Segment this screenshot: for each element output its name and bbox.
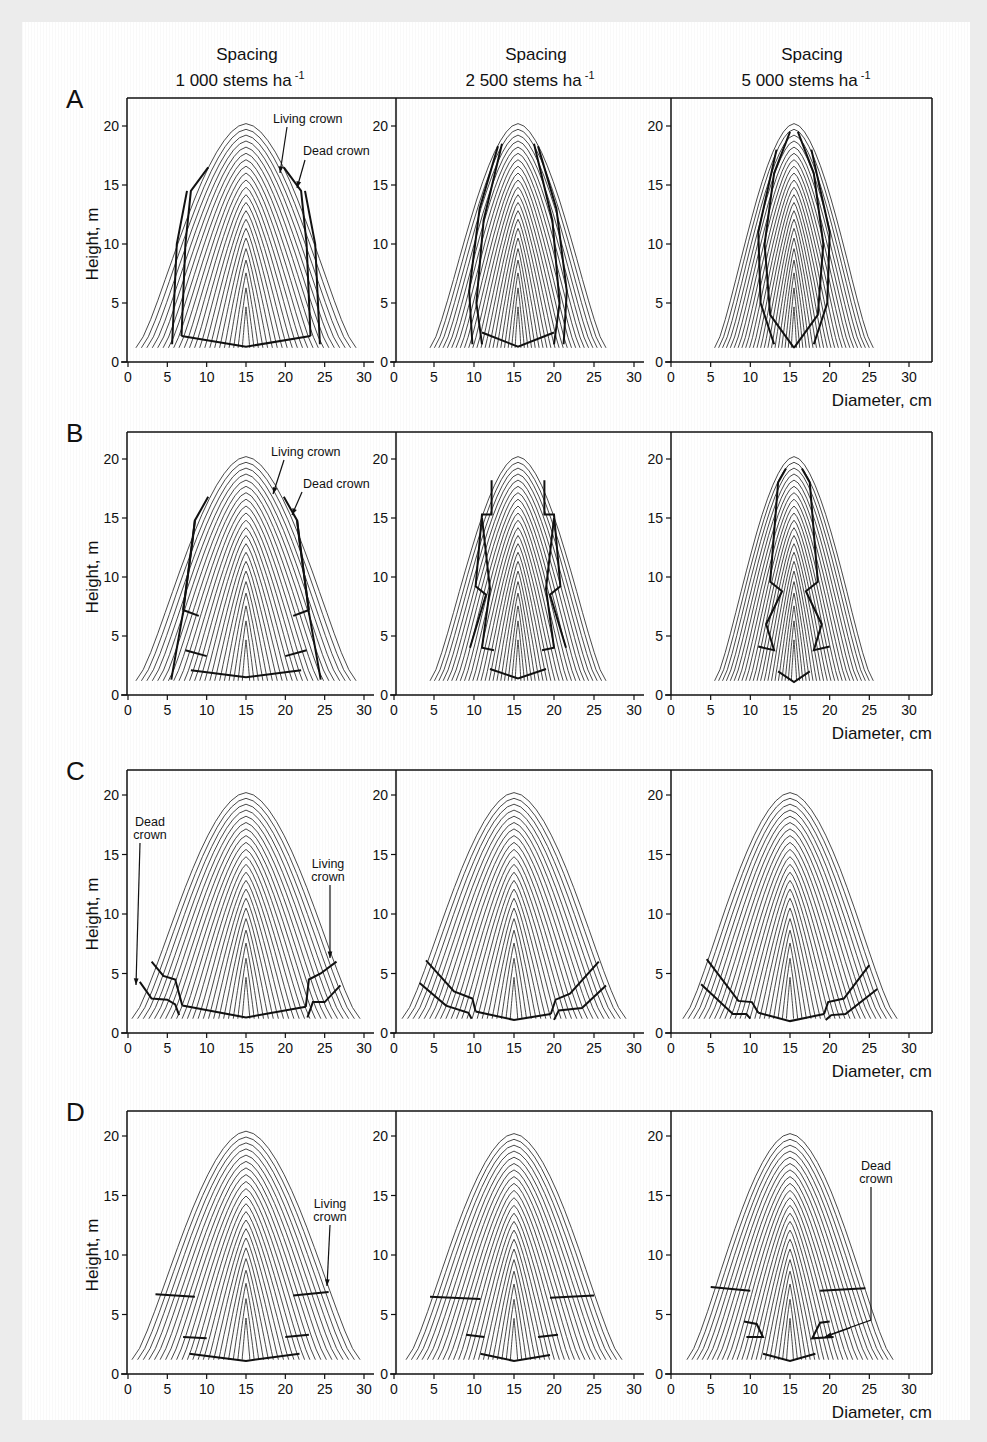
x-tick-label: 0 — [124, 702, 132, 718]
x-tick-label: 0 — [390, 369, 398, 385]
y-tick-label: 5 — [655, 295, 663, 311]
x-tick-label: 0 — [667, 1040, 675, 1056]
whorl-7-line — [183, 610, 199, 616]
x-tick-label: 20 — [822, 369, 838, 385]
growth-ring-curve — [477, 195, 559, 348]
y-tick-label: 15 — [647, 177, 663, 193]
growth-ring-curve — [198, 872, 294, 1019]
growth-ring-curve — [406, 1134, 622, 1360]
y-tick-label: 20 — [372, 451, 388, 467]
y-tick-label: 15 — [647, 847, 663, 863]
subplot-c-3: 05101520051015202530Diameter, cm — [647, 770, 932, 1081]
y-tick-label: 0 — [655, 687, 663, 703]
x-tick-label: 15 — [238, 1381, 254, 1397]
col2-title: Spacing — [505, 45, 566, 64]
growth-ring-curve — [242, 640, 249, 681]
growth-ring-curve — [730, 147, 857, 348]
x-tick-label: 10 — [743, 1381, 759, 1397]
growth-ring-curve — [788, 621, 799, 681]
x-tick-label: 20 — [278, 1040, 294, 1056]
growth-ring-curve — [402, 793, 626, 1019]
x-tick-label: 10 — [466, 369, 482, 385]
y-tick-label: 0 — [111, 1025, 119, 1041]
x-tick-label: 10 — [466, 1381, 482, 1397]
growth-ring-curve — [452, 486, 585, 681]
annotation-label: Dead — [135, 815, 165, 829]
growth-ring-curve — [730, 480, 857, 681]
y-tick-label: 20 — [103, 118, 119, 134]
annotation-label: crown — [133, 828, 166, 842]
x-tick-label: 0 — [667, 702, 675, 718]
y-tick-label: 10 — [372, 906, 388, 922]
col2-subtitle: 2 500 stems ha-1 — [465, 69, 594, 90]
x-tick-label: 5 — [163, 1381, 171, 1397]
growth-ring-curve — [512, 288, 525, 348]
subplot-a-1: 05101520051015202530 — [103, 98, 374, 385]
growth-ring-curve — [438, 1170, 590, 1360]
subplot-d-3: 05101520051015202530Diameter, cm — [647, 1111, 932, 1422]
x-tick-label: 10 — [466, 1040, 482, 1056]
growth-ring-curve — [132, 1131, 360, 1360]
col1-title: Spacing — [216, 45, 277, 64]
growth-ring-curve — [788, 288, 799, 348]
y-tick-label: 5 — [380, 628, 388, 644]
x-tick-label: 15 — [238, 369, 254, 385]
growth-ring-curve — [193, 1204, 299, 1360]
x-tick-label: 30 — [626, 702, 642, 718]
whorl-3-right-line — [285, 1335, 309, 1337]
y-tick-label: 20 — [647, 118, 663, 134]
x-tick-label: 5 — [430, 1381, 438, 1397]
x-tick-label: 15 — [506, 702, 522, 718]
column-headers: Spacing 1 000 stems ha-1 Spacing 2 500 s… — [175, 45, 870, 90]
x-tick-label: 15 — [782, 369, 798, 385]
stem-profile-figure: Spacing 1 000 stems ha-1 Spacing 2 500 s… — [0, 0, 987, 1442]
y-tick-label: 10 — [103, 1247, 119, 1263]
growth-ring-curve — [238, 288, 254, 348]
growth-ring-curve — [430, 457, 606, 681]
x-tick-label: 20 — [278, 702, 294, 718]
y-tick-label: 10 — [103, 906, 119, 922]
y-tick-label: 5 — [111, 295, 119, 311]
x-tick-label: 5 — [430, 1040, 438, 1056]
x-tick-label: 30 — [356, 1381, 372, 1397]
x-tick-label: 25 — [317, 1040, 333, 1056]
y-tick-label: 0 — [111, 1366, 119, 1382]
y-tick-label: 10 — [372, 1247, 388, 1263]
y-axis-title: Height, m — [83, 1219, 102, 1292]
y-tick-label: 10 — [103, 236, 119, 252]
subplot-c-2: 05101520051015202530 — [372, 770, 644, 1056]
growth-ring-curve — [198, 1212, 294, 1360]
x-tick-label: 0 — [390, 702, 398, 718]
panel-letter: C — [66, 756, 85, 786]
growth-ring-curve — [782, 958, 797, 1018]
x-tick-label: 25 — [317, 702, 333, 718]
annotation-label: Dead crown — [303, 477, 370, 491]
growth-ring-curve — [515, 640, 521, 681]
y-tick-label: 5 — [380, 1307, 388, 1323]
subplot-c-1: 05101520051015202530 — [103, 770, 374, 1056]
x-tick-label: 15 — [506, 1040, 522, 1056]
col3-title: Spacing — [781, 45, 842, 64]
x-tick-label: 25 — [862, 1040, 878, 1056]
growth-ring-curve — [166, 1168, 327, 1360]
x-tick-label: 5 — [707, 1040, 715, 1056]
x-tick-label: 15 — [238, 702, 254, 718]
base-arc-line — [482, 333, 554, 347]
x-tick-label: 5 — [430, 702, 438, 718]
y-tick-label: 20 — [372, 1128, 388, 1144]
subplot-b-2: 05101520051015202530 — [372, 432, 644, 718]
x-tick-label: 20 — [278, 1381, 294, 1397]
whorl-3-right-line — [538, 1335, 558, 1337]
x-tick-label: 5 — [707, 369, 715, 385]
x-tick-label: 30 — [901, 1381, 917, 1397]
panel-b: BHeight, m051015200510152025300510152005… — [66, 418, 932, 743]
x-tick-label: 10 — [743, 702, 759, 718]
growth-ring-curve — [515, 307, 521, 348]
y-tick-label: 10 — [103, 569, 119, 585]
annotation-label: crown — [313, 1210, 346, 1224]
y-tick-label: 10 — [372, 236, 388, 252]
x-tick-label: 0 — [390, 1381, 398, 1397]
x-tick-label: 30 — [901, 1040, 917, 1056]
growth-ring-curve — [132, 793, 360, 1019]
x-tick-label: 20 — [278, 369, 294, 385]
